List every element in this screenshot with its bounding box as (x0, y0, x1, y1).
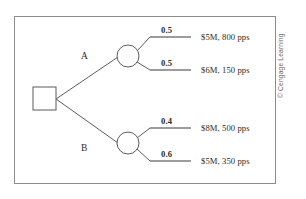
publisher-credit: © Cengage Learning (277, 33, 284, 98)
branch-line-a (56, 57, 118, 99)
chance-node-a[interactable] (117, 45, 139, 67)
probability-label-b2: 0.6 (161, 150, 172, 159)
outcome-label-a1: $5M, 800 pps (201, 33, 250, 42)
chance-node-b[interactable] (117, 132, 139, 154)
decision-tree-figure: A B 0.5 0.5 0.4 0.6 $5M, 800 pps $6M, 15… (0, 0, 306, 199)
probability-label-a1: 0.5 (161, 26, 172, 35)
branch-label-a: A (81, 52, 88, 62)
decision-node-square[interactable] (33, 87, 56, 110)
decision-tree-graphics (0, 0, 306, 199)
branch-line-b (56, 99, 118, 143)
probability-label-a2: 0.5 (161, 59, 172, 68)
outcome-line-a1 (137, 37, 150, 51)
outcome-line-a2 (137, 62, 150, 70)
outcome-line-b1 (137, 128, 150, 138)
probability-label-b1: 0.4 (161, 117, 172, 126)
outcome-label-b2: $5M, 350 pps (201, 157, 250, 166)
branch-label-b: B (81, 144, 88, 154)
outcome-label-a2: $6M, 150 pps (201, 66, 250, 75)
outcome-label-b1: $8M, 500 pps (201, 124, 250, 133)
outcome-line-b2 (137, 149, 150, 161)
